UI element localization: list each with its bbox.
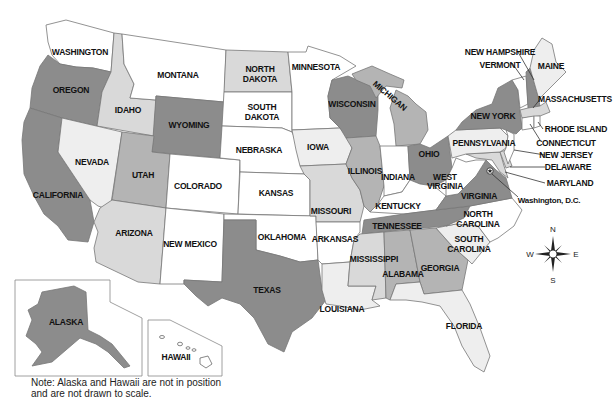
label-louisiana: LOUISIANA (320, 304, 365, 314)
state-rhode-island[interactable] (534, 116, 540, 128)
label-south-dakota-2: DAKOTA (245, 112, 280, 122)
label-idaho: IDAHO (115, 105, 142, 115)
label-montana: MONTANA (157, 70, 198, 80)
label-kentucky: KENTUCKY (375, 201, 421, 211)
map-note-line-1: Note: Alaska and Hawaii are not in posit… (31, 377, 221, 388)
label-maryland: MARYLAND (547, 178, 594, 188)
label-north-dakota-1: NORTH (245, 64, 274, 74)
label-hawaii: HAWAII (161, 352, 190, 362)
label-west-virginia-2: VIRGINIA (427, 181, 463, 191)
compass-s: S (550, 276, 555, 285)
label-wyoming: WYOMING (168, 120, 210, 130)
label-nevada: NEVADA (75, 157, 109, 167)
label-tennessee: TENNESSEE (372, 221, 422, 231)
dc-marker-icon (487, 168, 493, 174)
state-arizona[interactable] (94, 200, 166, 284)
label-oregon: OREGON (53, 85, 90, 95)
compass-w: W (526, 250, 534, 259)
label-south-carolina-1: SOUTH (455, 234, 484, 244)
label-new-york: NEW YORK (471, 111, 517, 121)
label-north-carolina-2: CAROLINA (456, 219, 499, 229)
us-map: N S E W WASHINGTON OREGON CALIFORNIA IDA… (0, 0, 616, 406)
state-montana[interactable] (122, 34, 226, 102)
label-south-carolina-2: CAROLINA (447, 244, 490, 254)
label-washington: WASHINGTON (52, 47, 108, 57)
compass-rose-icon: N S E W (526, 225, 578, 285)
label-utah: UTAH (132, 170, 154, 180)
label-connecticut: CONNECTICUT (536, 138, 597, 148)
label-washington-dc: Washington, D.C. (518, 196, 581, 205)
label-nebraska: NEBRASKA (236, 145, 283, 155)
label-pennsylvania: PENNSYLVANIA (453, 138, 516, 148)
label-texas: TEXAS (253, 285, 281, 295)
label-alaska: ALASKA (49, 317, 83, 327)
label-massachusetts: MASSACHUSETTS (538, 94, 612, 104)
label-south-dakota-1: SOUTH (248, 102, 277, 112)
label-vermont: VERMONT (479, 60, 521, 70)
label-wisconsin: WISCONSIN (328, 99, 375, 109)
label-illinois: ILLINOIS (348, 166, 383, 176)
label-alabama: ALABAMA (382, 269, 424, 279)
label-rhode-island: RHODE ISLAND (545, 124, 607, 134)
label-california: CALIFORNIA (33, 190, 83, 200)
label-mississippi: MISSISSIPPI (350, 254, 398, 264)
label-iowa: IOWA (307, 142, 329, 152)
label-arizona: ARIZONA (115, 228, 152, 238)
label-new-mexico: NEW MEXICO (163, 239, 217, 249)
alaska-inset (15, 280, 142, 376)
label-delaware: DELAWARE (545, 162, 592, 172)
label-north-carolina-1: NORTH (463, 209, 492, 219)
label-georgia: GEORGIA (421, 263, 460, 273)
label-oklahoma: OKLAHOMA (258, 232, 307, 242)
label-missouri: MISSOURI (311, 206, 351, 216)
label-indiana: INDIANA (381, 172, 415, 182)
label-arkansas: ARKANSAS (312, 234, 359, 244)
label-new-hampshire: NEW HAMPSHIRE (465, 47, 536, 57)
state-new-york[interactable] (456, 80, 522, 134)
label-kansas: KANSAS (259, 188, 294, 198)
label-minnesota: MINNESOTA (292, 62, 341, 72)
label-colorado: COLORADO (174, 181, 223, 191)
label-ohio: OHIO (419, 149, 441, 159)
compass-e: E (573, 250, 578, 259)
compass-n: N (550, 225, 556, 234)
label-new-jersey: NEW JERSEY (539, 150, 593, 160)
map-note: Note: Alaska and Hawaii are not in posit… (31, 377, 221, 399)
label-north-dakota-2: DAKOTA (243, 74, 278, 84)
label-florida: FLORIDA (446, 321, 482, 331)
label-maine: MAINE (538, 61, 565, 71)
label-virginia: VIRGINIA (461, 191, 497, 201)
map-note-line-2: and are not drawn to scale. (31, 388, 221, 399)
hawaii-inset (148, 320, 222, 376)
